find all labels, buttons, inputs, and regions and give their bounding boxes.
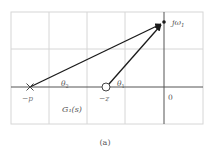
zero-vector (109, 25, 161, 84)
pole-label: −p (22, 94, 33, 103)
pole-vector (30, 24, 161, 87)
zero-marker-icon (102, 83, 110, 91)
transfer-function-label: G₁(s) (62, 105, 82, 114)
grid (11, 12, 203, 124)
theta1-label: θ1 (117, 79, 125, 89)
theta2-label: θ2 (61, 79, 69, 89)
test-point-label: jω1 (170, 18, 185, 28)
test-point-marker (162, 20, 166, 24)
figure-caption: (a) (99, 138, 110, 147)
zero-label: −z (99, 94, 109, 103)
pole-zero-diagram: jω1 θ2 θ1 −p −z 0 G₁(s) (a) (0, 0, 210, 149)
origin-label: 0 (168, 93, 173, 102)
